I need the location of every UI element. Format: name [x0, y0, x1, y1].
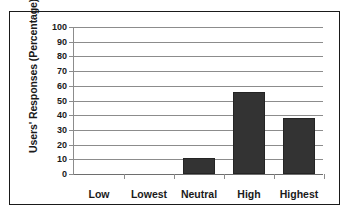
bar-slot	[124, 27, 174, 174]
x-tick	[274, 174, 275, 179]
y-axis-tick-label: 20	[37, 141, 67, 150]
y-axis-tick-label: 40	[37, 111, 67, 120]
y-axis-tick-label: 30	[37, 126, 67, 135]
x-tick	[224, 174, 225, 179]
x-axis-labels: LowLowestNeutralHighHighest	[74, 187, 324, 207]
bar-slot	[224, 27, 274, 174]
bar-slot	[74, 27, 124, 174]
bar-highest[interactable]	[283, 118, 315, 174]
gridline-0	[73, 174, 323, 175]
bar-high[interactable]	[233, 92, 265, 174]
bars-group	[74, 27, 323, 174]
x-axis-label-lowest: Lowest	[124, 187, 174, 201]
y-axis-tick-label: 90	[37, 38, 67, 47]
y-axis-tick-label: 70	[37, 67, 67, 76]
x-axis-label-highest: Highest	[274, 187, 324, 201]
x-axis-label-high: High	[224, 187, 274, 201]
y-axis-tick-label: 80	[37, 52, 67, 61]
y-axis-tick-label: 0	[37, 170, 67, 179]
x-axis-label-neutral: Neutral	[174, 187, 224, 201]
chart-figure: Users' Responses (Percentage) 1009080706…	[0, 0, 349, 218]
y-axis-tick-label: 50	[37, 97, 67, 106]
y-tick-0	[69, 174, 74, 175]
y-axis-tick-label: 60	[37, 82, 67, 91]
bar-slot	[274, 27, 324, 174]
x-tick	[324, 174, 325, 179]
x-tick	[124, 174, 125, 179]
y-axis-tick-label: 100	[37, 23, 67, 32]
y-axis-tick-label: 10	[37, 155, 67, 164]
x-axis-label-low: Low	[74, 187, 124, 201]
chart-frame: Users' Responses (Percentage) 1009080706…	[9, 11, 340, 205]
x-tick	[174, 174, 175, 179]
bar-slot	[174, 27, 224, 174]
bar-neutral[interactable]	[183, 158, 215, 174]
plot-area: 1009080706050403020100	[73, 27, 323, 174]
